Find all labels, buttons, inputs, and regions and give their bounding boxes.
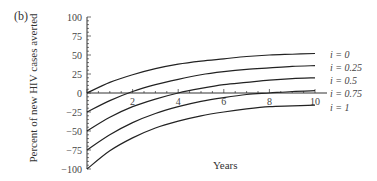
y-tick-label: 100 [67,12,82,23]
line-chart: 1007550250−25−50−75−100246810 i = 0i = 0… [0,0,377,181]
legend: i = 0i = 0.25i = 0.5i = 0.75i = 1 [330,49,362,113]
series-lines [87,53,315,169]
y-tick-label: −100 [61,164,82,175]
y-tick-label: 0 [77,88,82,99]
legend-entry: i = 0.75 [330,88,362,99]
y-tick-label: 25 [72,69,82,80]
y-tick-label: −75 [66,145,82,156]
series-line [87,105,315,169]
x-tick-label: 8 [267,96,272,107]
y-tick-label: 50 [72,50,82,61]
x-tick-label: 4 [176,96,181,107]
y-tick-label: −50 [66,126,82,137]
legend-entry: i = 1 [330,102,350,113]
axes: 1007550250−25−50−75−100246810 [61,12,327,175]
y-tick-label: 75 [72,31,82,42]
x-tick-label: 2 [130,96,135,107]
legend-entry: i = 0.5 [330,75,357,86]
series-line [87,91,315,150]
y-tick-label: −25 [66,107,82,118]
series-line [87,53,315,93]
series-line [87,78,315,131]
legend-entry: i = 0 [330,49,350,60]
legend-entry: i = 0.25 [330,62,362,73]
